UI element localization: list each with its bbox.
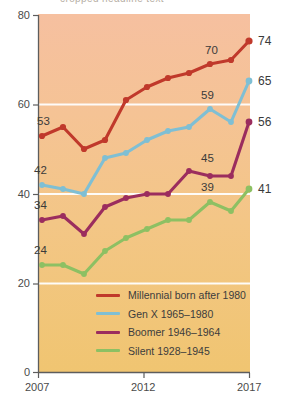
label-millennial-start: 53 (37, 115, 50, 127)
legend-label-boomer: Boomer 1946–1964 (128, 326, 220, 338)
series-millennial (42, 41, 249, 149)
chart-legend: Millennial born after 1980 Gen X 1965–19… (96, 286, 276, 360)
y-tick-0: 0 (4, 366, 30, 378)
y-tick-40: 40 (4, 188, 30, 200)
legend-item-millennial[interactable]: Millennial born after 1980 (96, 286, 276, 305)
x-tick-2007: 2007 (25, 381, 49, 393)
y-tick-80: 80 (4, 9, 30, 21)
legend-swatch-millennial (96, 294, 120, 297)
legend-label-genx: Gen X 1965–1980 (128, 308, 213, 320)
x-tick-2017: 2017 (237, 381, 261, 393)
generation-line-chart: cropped headline text (0, 0, 286, 397)
x-tick-2012: 2012 (131, 381, 155, 393)
label-boomer-end: 56 (258, 115, 271, 129)
legend-swatch-silent (96, 349, 120, 352)
series-silent (42, 189, 249, 274)
label-genx-mid: 59 (201, 89, 214, 101)
label-boomer-start: 34 (34, 199, 47, 211)
label-boomer-mid: 45 (201, 152, 214, 164)
legend-item-silent[interactable]: Silent 1928–1945 (96, 342, 276, 361)
label-millennial-end: 74 (258, 34, 271, 48)
legend-label-silent: Silent 1928–1945 (128, 345, 210, 357)
y-tick-20: 20 (4, 277, 30, 289)
series-silent-markers (39, 186, 252, 277)
y-tick-60: 60 (4, 98, 30, 110)
legend-label-millennial: Millennial born after 1980 (128, 289, 246, 301)
label-silent-mid: 39 (201, 181, 214, 193)
legend-item-genx[interactable]: Gen X 1965–1980 (96, 305, 276, 324)
legend-item-boomer[interactable]: Boomer 1946–1964 (96, 323, 276, 342)
label-silent-start: 24 (34, 244, 47, 256)
legend-swatch-boomer (96, 331, 120, 334)
label-millennial-mid: 70 (205, 44, 218, 56)
label-genx-end: 65 (258, 74, 271, 88)
label-genx-start: 42 (34, 164, 47, 176)
label-silent-end: 41 (258, 182, 271, 196)
legend-swatch-genx (96, 312, 120, 315)
